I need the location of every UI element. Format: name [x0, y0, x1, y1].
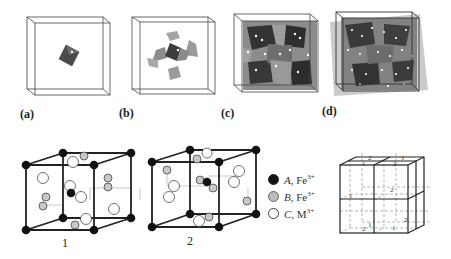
legend-item-a: A, Fe3+: [268, 171, 315, 188]
legend-ion: M: [297, 208, 307, 220]
figure-graphics: 2 1 1 2 1 2 1 2 2 1: [0, 0, 451, 259]
supercell-label: 1: [401, 154, 405, 162]
legend-letter: C: [284, 208, 291, 220]
polyhedra-cluster-icon: [147, 31, 198, 80]
gray-circle-icon: [268, 191, 279, 202]
legend-charge: 3+: [307, 190, 314, 198]
legend-letter: A: [284, 174, 291, 186]
octahedron-icon: [59, 45, 79, 66]
supercell-label: 2: [390, 186, 394, 194]
supercell-label: 1: [362, 160, 366, 168]
panel-label-a: (a): [20, 107, 34, 122]
black-circle-icon: [268, 174, 279, 185]
supercell-label: 2: [404, 216, 408, 224]
cube-label-2: 2: [187, 234, 193, 249]
supercell-label: 2: [368, 154, 372, 162]
supercell-diagram: 2 1 1 2 1 2 1 2 2 1: [340, 153, 430, 233]
legend: A, Fe3+ B, Fe3+ C, M3+: [268, 171, 315, 222]
supercell-label: 1: [368, 221, 372, 229]
legend-ion: Fe: [296, 174, 307, 186]
supercell-label: 1: [392, 224, 396, 232]
legend-ion: Fe: [296, 191, 307, 203]
legend-charge: 3+: [307, 173, 314, 181]
supercell-label: 2: [393, 160, 397, 168]
panel-label-b: (b): [119, 106, 134, 121]
legend-letter: B: [284, 191, 291, 203]
panel-label-d: (d): [322, 104, 337, 119]
supercell-label: 1: [349, 192, 353, 200]
panel-c-cube: [243, 21, 317, 90]
legend-item-b: B, Fe3+: [268, 188, 315, 205]
legend-charge: 3+: [307, 207, 314, 215]
supercell-label: 2: [362, 225, 366, 233]
panel-label-c: (c): [221, 106, 234, 121]
cube-1: [22, 149, 140, 235]
cube-label-1: 1: [62, 236, 68, 251]
figure: 2 1 1 2 1 2 1 2 2 1 (a) (b) (c) (d) 1 2 …: [0, 0, 451, 259]
white-circle-icon: [268, 208, 279, 219]
cube-2: [148, 146, 261, 232]
legend-item-c: C, M3+: [268, 205, 315, 222]
